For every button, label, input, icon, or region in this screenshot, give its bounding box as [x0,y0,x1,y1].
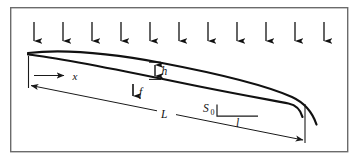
figure-canvas: x h f L S 0 l [0,0,362,163]
dimension-h-label: h [162,65,168,77]
dimension-slope-s0-subscript: 0 [211,108,215,117]
dimension-l-label: l [236,117,239,129]
dimension-x-label: x [72,70,78,82]
dimension-L-label: L [160,108,167,120]
dimension-slope-s0-label: S [203,102,209,114]
overland-flow-figure: x h f L S 0 l [0,0,362,163]
